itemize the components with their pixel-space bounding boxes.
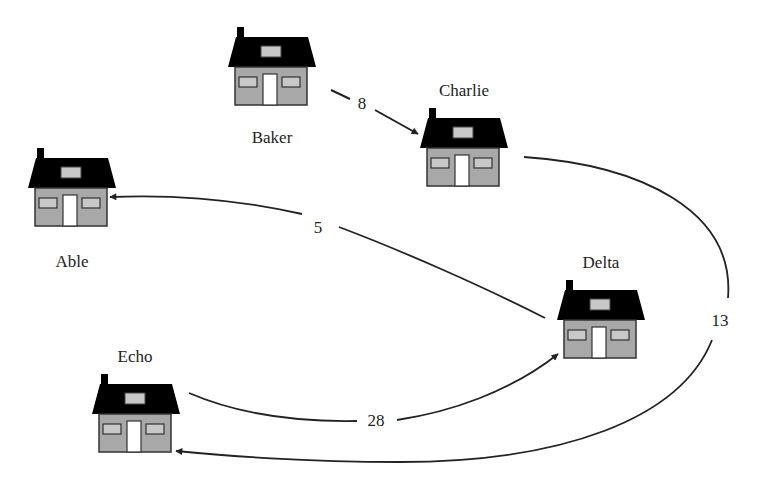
house-icon-echo: [92, 374, 180, 452]
edge-charlie-echo: [176, 157, 728, 462]
edge-weight-delta-able: 5: [314, 218, 323, 238]
edge-weight-echo-delta: 28: [368, 411, 385, 431]
house-icon-delta: [557, 280, 645, 358]
node-label-echo: Echo: [118, 347, 153, 367]
house-icon-charlie: [420, 108, 508, 186]
node-label-baker: Baker: [252, 128, 293, 148]
node-label-able: Able: [55, 252, 88, 272]
edge-weight-baker-charlie: 8: [358, 94, 367, 114]
edge-delta-able: [110, 196, 545, 318]
edge-weight-charlie-echo: 13: [712, 311, 729, 331]
node-label-delta: Delta: [583, 253, 620, 273]
node-label-charlie: Charlie: [439, 81, 489, 101]
edge-baker-charlie: [331, 90, 418, 134]
house-icon-baker: [228, 27, 316, 105]
house-icon-able: [28, 148, 116, 226]
